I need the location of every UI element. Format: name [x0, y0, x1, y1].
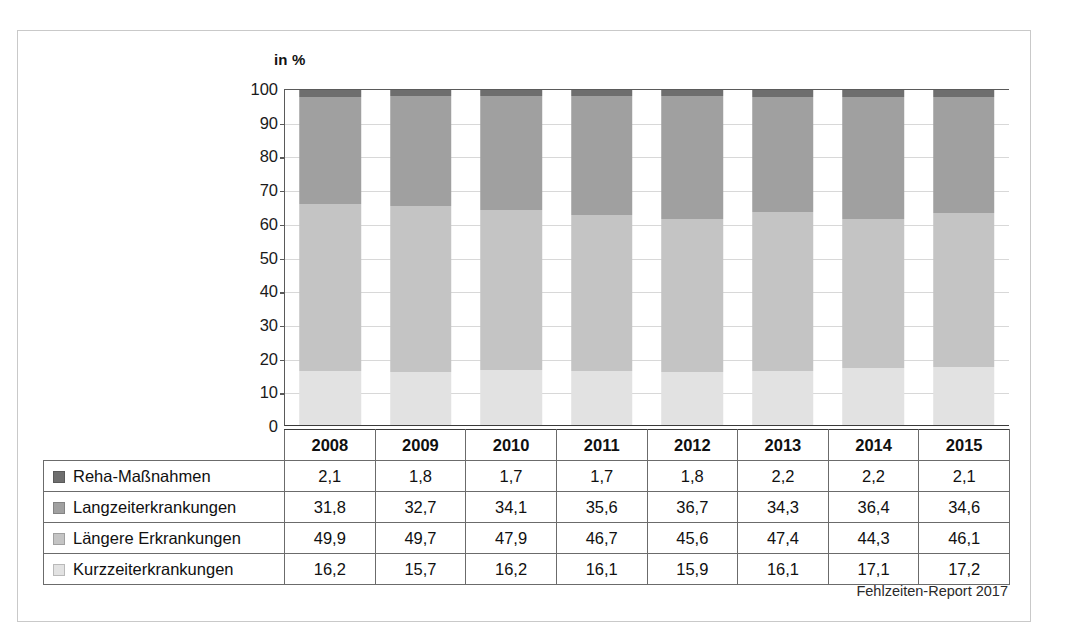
bar-slot-2012 [647, 90, 738, 425]
stacked-bar-2014[interactable] [842, 90, 904, 425]
bar-segment [390, 372, 452, 425]
bar-slot-2009 [376, 90, 467, 425]
y-axis-tick-50: 50 [232, 248, 278, 267]
data-table: 20082009201020112012201320142015 Reha-Ma… [43, 429, 1010, 585]
bar-slot-2008 [285, 90, 376, 425]
legend-swatch-icon [53, 564, 65, 576]
bar-slot-2013 [738, 90, 829, 425]
bar-segment [661, 372, 723, 425]
bar-segment [933, 90, 995, 97]
table-year-header-2009: 2009 [375, 430, 466, 461]
bar-segment [842, 219, 904, 367]
bar-segment [299, 204, 361, 371]
y-axis-tick-100: 100 [232, 80, 278, 99]
source-note: Fehlzeiten-Report 2017 [856, 583, 1008, 599]
table-cell: 16,2 [466, 554, 557, 585]
table-row: Langzeiterkrankungen31,832,734,135,636,7… [44, 492, 1010, 523]
y-axis-tick-90: 90 [232, 113, 278, 132]
table-cell: 32,7 [375, 492, 466, 523]
bar-slot-2014 [828, 90, 919, 425]
stacked-bar-2012[interactable] [661, 90, 723, 425]
table-cell: 16,1 [738, 554, 829, 585]
bar-segment [390, 206, 452, 372]
table-cell: 1,8 [375, 461, 466, 492]
table-cell: 2,2 [828, 461, 919, 492]
y-axis-tick-60: 60 [232, 214, 278, 233]
table-cell: 2,1 [919, 461, 1010, 492]
bar-segment [299, 97, 361, 204]
table-cell: 17,1 [828, 554, 919, 585]
table-cell: 49,7 [375, 523, 466, 554]
table-row-label-2: Längere Erkrankungen [44, 523, 285, 554]
table-row: Längere Erkrankungen49,949,747,946,745,6… [44, 523, 1010, 554]
bar-segment [752, 371, 814, 425]
table-cell: 34,6 [919, 492, 1010, 523]
table-cell: 1,7 [556, 461, 647, 492]
table-year-header-2011: 2011 [556, 430, 647, 461]
bar-segment [752, 97, 814, 212]
bar-segment [842, 97, 904, 219]
legend-swatch-icon [53, 533, 65, 545]
table-cell: 46,1 [919, 523, 1010, 554]
legend-label-text: Reha-Maßnahmen [73, 467, 211, 485]
table-cell: 1,7 [466, 461, 557, 492]
data-table-region: 20082009201020112012201320142015 Reha-Ma… [43, 429, 1009, 585]
table-cell: 47,9 [466, 523, 557, 554]
table-cell: 44,3 [828, 523, 919, 554]
y-axis-tick-20: 20 [232, 349, 278, 368]
stacked-bar-2009[interactable] [390, 90, 452, 425]
legend-swatch-icon [53, 471, 65, 483]
table-cell: 31,8 [285, 492, 376, 523]
table-cell: 2,2 [738, 461, 829, 492]
table-cell: 35,6 [556, 492, 647, 523]
legend-label-text: Kurzzeiterkrankungen [73, 560, 234, 578]
bar-segment [752, 90, 814, 97]
table-cell: 34,3 [738, 492, 829, 523]
table-cell: 17,2 [919, 554, 1010, 585]
bar-segment [480, 96, 542, 210]
bar-segment [571, 215, 633, 371]
table-cell: 34,1 [466, 492, 557, 523]
table-year-header-2013: 2013 [738, 430, 829, 461]
table-year-header-2008: 2008 [285, 430, 376, 461]
y-axis-tick-10: 10 [232, 383, 278, 402]
bar-segment [933, 213, 995, 367]
bar-segment [933, 97, 995, 213]
table-cell: 46,7 [556, 523, 647, 554]
table-cell: 15,7 [375, 554, 466, 585]
table-cell: 45,6 [647, 523, 738, 554]
y-axis-tick-labels: 1009080706050403020100 [228, 89, 278, 426]
bar-segment [571, 96, 633, 215]
table-cell: 49,9 [285, 523, 376, 554]
chart-region: in % 1009080706050403020100 [18, 31, 1032, 431]
stacked-bar-2011[interactable] [571, 90, 633, 425]
bar-segment [661, 96, 723, 219]
table-cell: 2,1 [285, 461, 376, 492]
table-cell: 36,4 [828, 492, 919, 523]
table-header-row: 20082009201020112012201320142015 [44, 430, 1010, 461]
table-row: Reha-Maßnahmen2,11,81,71,71,82,22,22,1 [44, 461, 1010, 492]
table-row-label-0: Reha-Maßnahmen [44, 461, 285, 492]
table-corner-cell [44, 430, 285, 461]
bar-slot-2011 [557, 90, 648, 425]
bar-segment [299, 371, 361, 425]
table-cell: 47,4 [738, 523, 829, 554]
table-cell: 36,7 [647, 492, 738, 523]
stacked-bars [285, 90, 1009, 425]
table-year-header-2012: 2012 [647, 430, 738, 461]
table-cell: 16,2 [285, 554, 376, 585]
stacked-bar-2015[interactable] [933, 90, 995, 425]
y-axis-tick-70: 70 [232, 181, 278, 200]
bar-segment [661, 219, 723, 372]
figure-frame: in % 1009080706050403020100 200820092010… [17, 30, 1031, 622]
table-row-label-3: Kurzzeiterkrankungen [44, 554, 285, 585]
bar-segment [752, 212, 814, 371]
stacked-bar-2013[interactable] [752, 90, 814, 425]
bar-segment [480, 370, 542, 424]
table-year-header-2015: 2015 [919, 430, 1010, 461]
stacked-bar-2008[interactable] [299, 90, 361, 425]
bar-segment [933, 367, 995, 425]
table-year-header-2010: 2010 [466, 430, 557, 461]
stacked-bar-2010[interactable] [480, 90, 542, 425]
table-year-header-2014: 2014 [828, 430, 919, 461]
